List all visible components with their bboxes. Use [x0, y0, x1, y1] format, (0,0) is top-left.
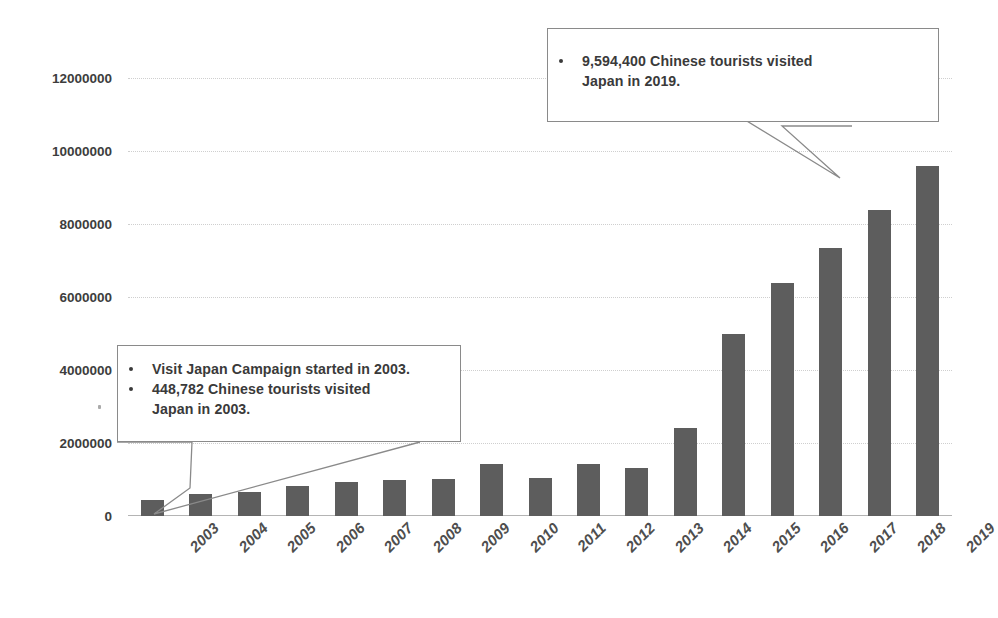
bar-series — [128, 78, 952, 516]
bar-2004 — [189, 494, 212, 516]
x-axis-tick-label-2018: 2018 — [913, 519, 949, 555]
bar-2006 — [286, 486, 309, 516]
x-axis-tick-label-2012: 2012 — [622, 519, 658, 555]
x-axis-tick-label-2014: 2014 — [719, 519, 755, 555]
x-axis-tick-label-2019: 2019 — [962, 519, 998, 555]
bar-2011 — [529, 478, 552, 516]
scan-artifact-speck — [98, 405, 101, 409]
callout-2019[interactable]: 9,594,400 Chinese tourists visited Japan… — [547, 28, 939, 122]
y-axis-tick-label: 2000000 — [59, 436, 112, 451]
x-axis-tick-label-2011: 2011 — [574, 519, 609, 554]
bar-2018 — [868, 210, 891, 516]
x-axis-tick-label-2008: 2008 — [429, 519, 465, 555]
x-axis-tick-label-2003: 2003 — [186, 519, 222, 555]
y-axis-tick-label: 12000000 — [52, 71, 112, 86]
x-axis-tick-label-2009: 2009 — [477, 519, 513, 555]
callout-2019-bullet-1: 9,594,400 Chinese tourists visited Japan… — [548, 51, 930, 91]
x-axis-tick-label-2005: 2005 — [283, 519, 319, 555]
x-axis-tick-label-2015: 2015 — [768, 519, 804, 555]
y-axis: 12000000 10000000 8000000 6000000 400000… — [0, 78, 118, 516]
y-axis-tick-label: 4000000 — [59, 363, 112, 378]
bar-2003 — [141, 500, 164, 516]
y-axis-tick-label: 0 — [104, 509, 112, 524]
y-axis-tick-label: 6000000 — [59, 290, 112, 305]
x-axis-tick-label-2016: 2016 — [816, 519, 852, 555]
bar-2008 — [383, 480, 406, 517]
bar-2005 — [238, 492, 261, 516]
bar-2016 — [771, 283, 794, 516]
bar-2009 — [432, 479, 455, 516]
callout-2003[interactable]: Visit Japan Campaign started in 2003. 44… — [117, 345, 461, 442]
callout-2003-bullet-2: 448,782 Chinese tourists visited Japan i… — [118, 379, 452, 419]
callout-2003-bullet-1: Visit Japan Campaign started in 2003. — [118, 359, 452, 379]
bar-2010 — [480, 464, 503, 516]
callout-2003-bullet-2-line-2: Japan in 2003. — [152, 399, 452, 419]
callout-2003-bullet-2-line-1: 448,782 Chinese tourists visited — [152, 381, 370, 397]
bar-2019 — [916, 166, 939, 516]
x-axis-tick-label-2007: 2007 — [380, 519, 416, 555]
bar-2015 — [722, 334, 745, 516]
y-axis-tick-label: 10000000 — [52, 144, 112, 159]
x-axis-tick-label-2013: 2013 — [671, 519, 707, 555]
callout-2019-bullet-1-line-1: 9,594,400 Chinese tourists visited — [582, 53, 813, 69]
y-axis-tick-label: 8000000 — [59, 217, 112, 232]
bar-2007 — [335, 482, 358, 516]
x-axis-tick-label-2004: 2004 — [235, 519, 271, 555]
plot-area — [128, 78, 952, 516]
x-axis-tick-label-2006: 2006 — [332, 519, 368, 555]
callout-2019-bullet-1-line-2: Japan in 2019. — [582, 71, 930, 91]
bar-2014 — [674, 428, 697, 516]
bar-2013 — [625, 468, 648, 516]
x-axis-tick-label-2010: 2010 — [526, 519, 562, 555]
bar-2017 — [819, 248, 842, 516]
x-axis: 2003200420052006200720082009201020112012… — [128, 519, 952, 615]
x-axis-tick-label-2017: 2017 — [865, 519, 901, 555]
callout-2019-list: 9,594,400 Chinese tourists visited Japan… — [548, 51, 930, 91]
bar-2012 — [577, 464, 600, 516]
callout-2003-list: Visit Japan Campaign started in 2003. 44… — [118, 359, 452, 419]
